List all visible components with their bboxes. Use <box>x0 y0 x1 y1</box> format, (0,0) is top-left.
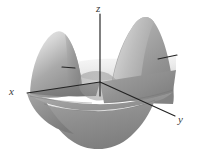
surface-plot-figure: x y z <box>0 0 197 151</box>
z-axis-label: z <box>96 3 100 14</box>
y-axis-label: y <box>178 114 183 125</box>
x-axis-label: x <box>9 86 14 97</box>
surface-plot-canvas <box>0 0 197 151</box>
